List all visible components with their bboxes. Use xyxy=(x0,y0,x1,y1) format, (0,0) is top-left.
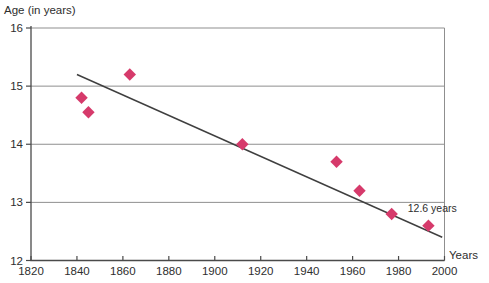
data-point-4 xyxy=(330,155,342,167)
x-tick-label-1940: 1940 xyxy=(294,265,320,277)
y-tick-label-16: 16 xyxy=(10,22,23,34)
annotation-label: 12.6 years xyxy=(408,202,457,214)
x-tick-label-1920: 1920 xyxy=(248,265,274,277)
x-tick-label-2000: 2000 xyxy=(432,265,458,277)
data-point-3 xyxy=(236,138,248,150)
x-tick-label-1900: 1900 xyxy=(202,265,228,277)
data-point-7 xyxy=(422,219,434,231)
plot-area: 1213141516182018401860188019001920194019… xyxy=(0,0,489,283)
x-tick-label-1980: 1980 xyxy=(386,265,412,277)
x-axis-title: Years xyxy=(449,249,478,261)
y-tick-label-13: 13 xyxy=(10,196,23,208)
x-tick-label-1840: 1840 xyxy=(64,265,90,277)
data-point-5 xyxy=(353,185,365,197)
y-tick-label-14: 14 xyxy=(10,138,23,150)
x-tick-label-1880: 1880 xyxy=(156,265,182,277)
scatter-chart: Age (in years) 1213141516182018401860188… xyxy=(0,0,489,283)
y-tick-label-15: 15 xyxy=(10,80,23,92)
data-point-1 xyxy=(82,106,94,118)
data-point-2 xyxy=(124,68,136,80)
data-point-6 xyxy=(385,208,397,220)
data-point-0 xyxy=(75,92,87,104)
x-tick-label-1860: 1860 xyxy=(110,265,136,277)
x-tick-label-1820: 1820 xyxy=(18,265,44,277)
x-tick-label-1960: 1960 xyxy=(340,265,366,277)
